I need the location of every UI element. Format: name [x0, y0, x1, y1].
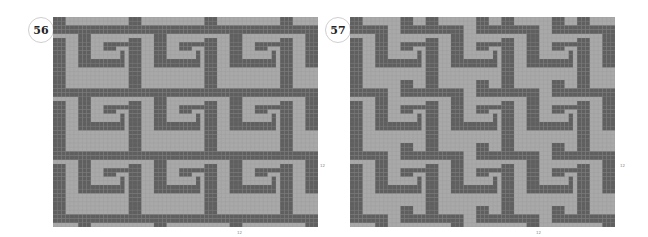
knitting-chart-56: [53, 17, 318, 227]
chart-57-bottom-label: 12: [536, 230, 541, 235]
knitting-chart-57: [350, 17, 615, 227]
chart-56-bottom-label: 12: [237, 230, 242, 235]
chart-57-side-label: 12: [620, 163, 625, 168]
chart-badge-57: 57: [325, 17, 351, 43]
chart-badge-56: 56: [28, 17, 54, 43]
chart-56-side-label: 12: [320, 163, 325, 168]
